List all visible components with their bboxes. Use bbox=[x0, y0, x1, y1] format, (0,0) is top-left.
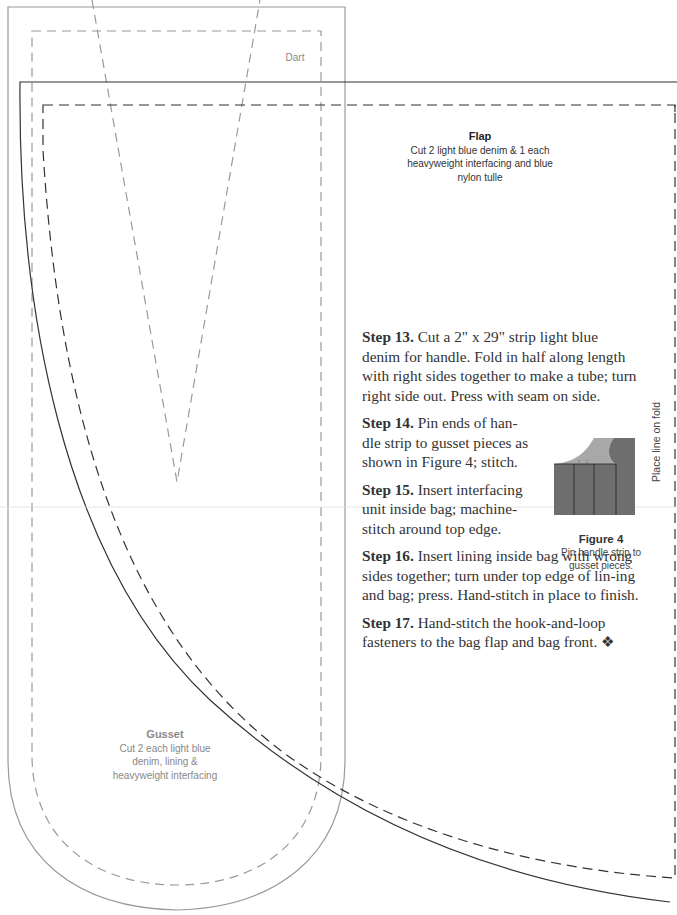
figure-caption-line: Pin handle strip to bbox=[540, 546, 662, 559]
gusset-title: Gusset bbox=[60, 728, 270, 742]
step-label: Step 13. bbox=[362, 328, 414, 345]
flap-instruction-line: Cut 2 light blue denim & 1 each bbox=[360, 144, 600, 158]
step-13: Step 13. Cut a 2" x 29" strip light blue… bbox=[362, 327, 640, 405]
figure-4-caption: Figure 4 Pin handle strip to gusset piec… bbox=[540, 533, 662, 572]
fold-line-label: Place line on fold bbox=[650, 402, 662, 482]
step-label: Step 15. bbox=[362, 481, 414, 498]
dart-line bbox=[92, 0, 260, 482]
flap-title: Flap bbox=[360, 130, 600, 144]
step-label: Step 16. bbox=[362, 547, 414, 564]
gusset-label-block: Gusset Cut 2 each light blue denim, lini… bbox=[60, 728, 270, 782]
step-14: Step 14. Pin ends of han-dle strip to gu… bbox=[362, 413, 532, 472]
figure-caption-line: gusset pieces. bbox=[540, 559, 662, 572]
flap-instruction-line: heavyweight interfacing and blue bbox=[360, 157, 600, 171]
figure-4-illustration bbox=[554, 438, 635, 515]
step-label: Step 14. bbox=[362, 414, 414, 431]
flap-label-block: Flap Cut 2 light blue denim & 1 each hea… bbox=[360, 130, 600, 184]
gusset-instruction-line: heavyweight interfacing bbox=[60, 769, 270, 783]
dart-label: Dart bbox=[240, 52, 350, 63]
step-15: Step 15. Insert interfacing unit inside … bbox=[362, 480, 532, 539]
step-17: Step 17. Hand-stitch the hook-and-loop f… bbox=[362, 613, 640, 652]
figure-title: Figure 4 bbox=[540, 533, 662, 546]
flap-instruction-line: nylon tulle bbox=[360, 171, 600, 185]
gusset-instruction-line: Cut 2 each light blue bbox=[60, 742, 270, 756]
gusset-instruction-line: denim, lining & bbox=[60, 755, 270, 769]
step-label: Step 17. bbox=[362, 614, 414, 631]
